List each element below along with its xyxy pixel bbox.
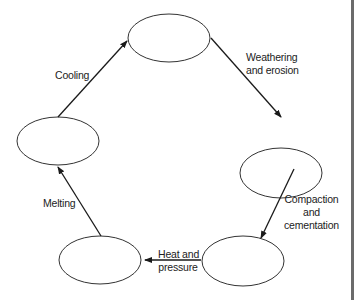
label-melting: Melting — [43, 197, 75, 210]
node-bottom-left — [59, 236, 141, 284]
label-weathering-line1: Weathering — [246, 51, 299, 64]
node-left — [17, 117, 99, 165]
label-compaction-line3: cementation — [284, 219, 339, 232]
node-right — [240, 148, 322, 198]
node-bottom-right — [202, 236, 284, 286]
label-compaction-line1: Compaction — [284, 193, 339, 206]
node-top — [128, 14, 210, 62]
label-cooling: Cooling — [55, 69, 89, 82]
label-compaction-line2: and — [284, 206, 339, 219]
label-heat-pressure: Heat and pressure — [158, 248, 198, 274]
arrow-weathering — [211, 38, 281, 117]
label-heat-line2: pressure — [158, 261, 198, 274]
label-heat-line1: Heat and — [158, 248, 198, 261]
label-weathering-line2: and erosion — [246, 64, 299, 77]
label-compaction-cementation: Compaction and cementation — [284, 193, 339, 232]
label-weathering-erosion: Weathering and erosion — [246, 51, 299, 77]
